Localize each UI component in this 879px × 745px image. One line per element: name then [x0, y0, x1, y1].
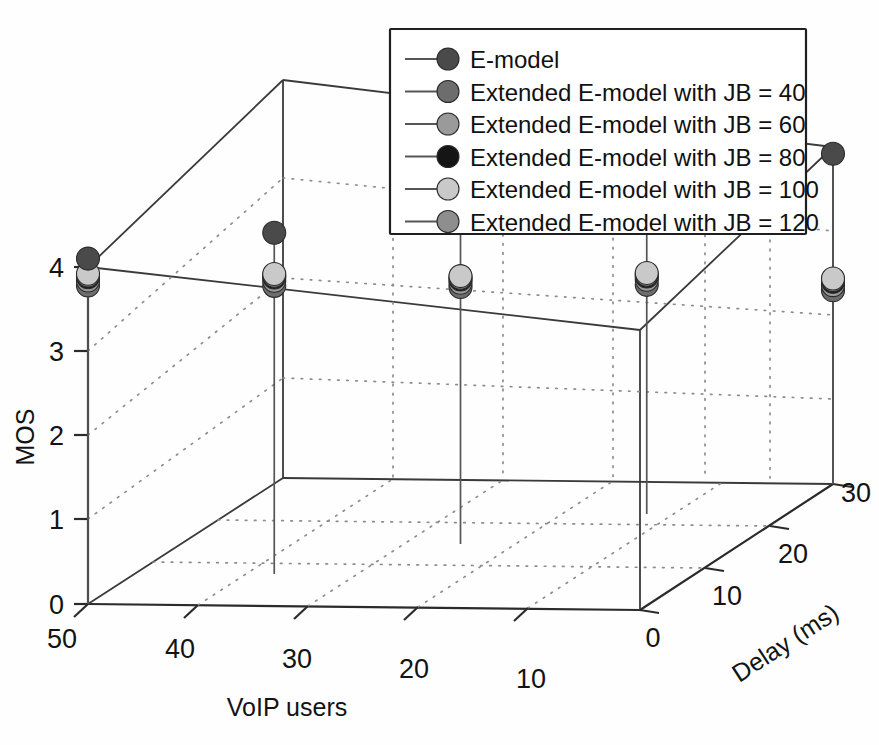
- legend-item-label: Extended E-model with JB = 40: [470, 79, 806, 106]
- legend-item-label: Extended E-model with JB = 120: [470, 209, 819, 236]
- legend-marker-icon: [437, 48, 459, 70]
- tick-y-20: [770, 526, 789, 529]
- y-tick-label-10: 10: [712, 581, 742, 611]
- legend-item-label: Extended E-model with JB = 80: [470, 144, 806, 171]
- legend-marker-icon: [437, 113, 459, 135]
- legend-item-label: E-model: [470, 46, 559, 73]
- figure-container: 4 3 2 1 0 50 40 30 20 10 0 10 20 30 MOS …: [0, 0, 879, 745]
- gridline-left-mos3: [88, 178, 283, 351]
- gridline-floor-x10: [528, 482, 723, 608]
- data-point-marker[interactable]: [263, 221, 286, 244]
- floor-back-edge: [283, 478, 833, 484]
- legend[interactable]: E-modelExtended E-model with JB = 40Exte…: [390, 29, 819, 236]
- z-tick-label-0: 0: [49, 590, 64, 620]
- data-point-marker[interactable]: [822, 142, 845, 165]
- tick-y-0: [640, 610, 659, 613]
- gridline-left-mos2: [88, 278, 283, 435]
- axis-title-mos: MOS: [11, 409, 39, 466]
- x-tick-label-20: 20: [399, 654, 429, 684]
- tick-x-50: [74, 604, 88, 617]
- legend-marker-icon: [437, 81, 459, 103]
- axis-title-voip-users: VoIP users: [227, 693, 347, 721]
- gridline-back-mos2: [283, 278, 833, 315]
- gridline-back-mos1: [283, 378, 833, 399]
- gridline-floor-x40: [198, 479, 393, 605]
- tick-x-40: [184, 605, 198, 618]
- gridline-floor-x30: [308, 480, 503, 606]
- tick-y-10: [705, 568, 724, 571]
- x-axis-tick-labels: 50 40 30 20 10: [47, 624, 546, 694]
- axis-x-line: [88, 604, 640, 610]
- stem3-chart: 4 3 2 1 0 50 40 30 20 10 0 10 20 30 MOS …: [0, 0, 879, 745]
- axis-title-delay: Delay (ms): [727, 598, 844, 687]
- x-tick-label-50: 50: [47, 624, 77, 654]
- legend-marker-icon: [437, 146, 459, 168]
- y-tick-label-30: 30: [841, 478, 871, 508]
- z-tick-label-1: 1: [49, 505, 64, 535]
- mos4-front-edge: [88, 267, 640, 330]
- z-tick-label-2: 2: [49, 421, 64, 451]
- gridline-floor-x20: [418, 481, 613, 607]
- data-point-marker[interactable]: [449, 265, 472, 288]
- z-tick-label-4: 4: [49, 253, 64, 283]
- legend-marker-icon: [437, 211, 459, 233]
- tick-x-20: [404, 607, 418, 620]
- x-tick-label-40: 40: [165, 634, 195, 664]
- legend-item-label: Extended E-model with JB = 60: [470, 111, 806, 138]
- data-point-marker[interactable]: [822, 267, 845, 290]
- legend-marker-icon: [437, 178, 459, 200]
- gridline-floor-delay10: [153, 562, 705, 568]
- tick-x-30: [294, 606, 308, 619]
- tick-x-10: [514, 608, 528, 621]
- data-point-marker[interactable]: [635, 262, 658, 285]
- z-tick-label-3: 3: [49, 337, 64, 367]
- y-tick-label-0: 0: [645, 623, 660, 653]
- ceiling-left-edge: [88, 80, 283, 267]
- data-point-marker[interactable]: [263, 263, 286, 286]
- legend-item-label: Extended E-model with JB = 100: [470, 176, 819, 203]
- x-tick-label-30: 30: [282, 644, 312, 674]
- data-point-marker[interactable]: [77, 247, 100, 270]
- x-tick-label-10: 10: [516, 664, 546, 694]
- y-tick-label-20: 20: [778, 539, 808, 569]
- gridline-floor-delay20: [218, 520, 770, 526]
- y-axis-tick-labels: 0 10 20 30: [645, 478, 871, 653]
- z-axis-tick-labels: 4 3 2 1 0: [49, 253, 64, 620]
